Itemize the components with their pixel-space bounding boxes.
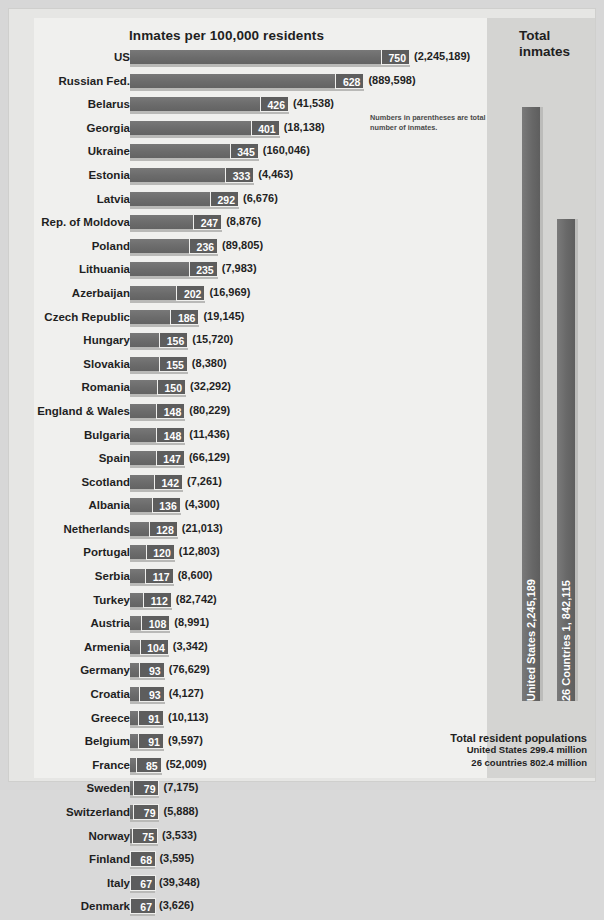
bar-total-label: (16,969) (209, 286, 250, 298)
bar-total-label: (82,742) (176, 593, 217, 605)
bar-value-chip: 247 (193, 214, 222, 230)
vertical-bar-us-label-text: United States 2,245,189 (525, 573, 537, 701)
totals-title-line2: inmates (519, 44, 570, 60)
bar-total-label: (89,805) (222, 239, 263, 251)
bar-total-label: (21,013) (182, 522, 223, 534)
bar-total-label: (8,600) (178, 569, 213, 581)
bar-row: Belarus426(41,538) (34, 95, 487, 119)
bar-value-chip: 75 (132, 828, 158, 844)
vertical-bar-26-countries: 26 Countries 1, 842,115 (557, 219, 575, 701)
bar-row-label: France (0, 759, 130, 771)
bar-row-label: Bulgaria (0, 429, 130, 441)
bar-row-label: Finland (0, 853, 130, 865)
bar-row-label: Serbia (0, 570, 130, 582)
bar-wrapper: 91 (130, 734, 164, 753)
bar-wrapper: 67 (130, 876, 155, 895)
totals-footer-line1: United States 299.4 million (357, 744, 587, 757)
bar-row-label: Scotland (0, 476, 130, 488)
bar-total-label: (7,261) (187, 475, 222, 487)
bar-wrapper: 202 (130, 286, 205, 305)
bar-row: Spain147(66,129) (34, 449, 487, 473)
bar-value-chip: 628 (335, 73, 364, 89)
bar-wrapper: 68 (130, 852, 155, 871)
bar-wrapper: 156 (130, 333, 188, 352)
bar-row-label: Lithuania (0, 263, 130, 275)
bar-row-label: Turkey (0, 594, 130, 606)
bar-total-label: (80,229) (189, 404, 230, 416)
bar-value-chip: 79 (133, 780, 159, 796)
bar-row: Hungary156(15,720) (34, 331, 487, 355)
bar-wrapper: 85 (130, 758, 162, 777)
bar-row-label: Azerbaijan (0, 287, 130, 299)
bar-total-label: (160,046) (263, 144, 310, 156)
bar-wrapper: 345 (130, 144, 259, 163)
bar-row-label: Ukraine (0, 145, 130, 157)
totals-footer: Total resident populations United States… (357, 732, 587, 770)
bar-wrapper: 333 (130, 168, 254, 187)
bar-wrapper: 426 (130, 97, 289, 116)
vertical-bar-united-states: United States 2,245,189 (522, 107, 540, 701)
bar-value-chip: 93 (139, 662, 165, 678)
bar-total-label: (18,138) (284, 121, 325, 133)
bar-wrapper: 292 (130, 192, 239, 211)
bar-wrapper: 108 (130, 616, 170, 635)
bar-row-label: Slovakia (0, 358, 130, 370)
bar-value-chip: 202 (176, 285, 205, 301)
bar-total-label: (8,380) (192, 357, 227, 369)
bar-value-chip: 186 (170, 309, 199, 325)
bar-wrapper: 112 (130, 593, 172, 612)
bar-chart-panel: Inmates per 100,000 residents Numbers in… (34, 18, 487, 778)
bar-row-label: Croatia (0, 688, 130, 700)
bar-value-chip: 401 (251, 120, 280, 136)
bar-total-label: (41,538) (293, 97, 334, 109)
vertical-bar-us-label: United States 2,245,189 (522, 107, 540, 701)
bar-row-label: Germany (0, 664, 130, 676)
bar-row: Estonia333(4,463) (34, 166, 487, 190)
bar-total-label: (3,626) (159, 899, 194, 911)
bar-value-chip: 750 (381, 49, 410, 65)
bar-row-label: Poland (0, 240, 130, 252)
bar-row: Latvia292(6,676) (34, 190, 487, 214)
bar-wrapper: 150 (130, 380, 186, 399)
bar-total-label: (889,598) (368, 74, 415, 86)
bar-wrapper: 142 (130, 475, 183, 494)
bar-total-label: (39,348) (159, 876, 200, 888)
bar-row: Switzerland79(5,888) (34, 803, 487, 827)
bar-wrapper: 120 (130, 545, 175, 564)
bar-row-label: Armenia (0, 641, 130, 653)
bar-row-label: England & Wales (0, 405, 130, 417)
bar-total-label: (3,342) (173, 640, 208, 652)
bar-total-label: (15,720) (192, 333, 233, 345)
bar-row: Denmark67(3,626) (34, 897, 487, 920)
bar-wrapper: 236 (130, 239, 218, 258)
bar-wrapper: 93 (130, 687, 165, 706)
bar-wrapper: 79 (130, 781, 159, 800)
bar-value-chip: 148 (156, 403, 185, 419)
bar-total-label: (12,803) (179, 545, 220, 557)
bar-wrapper: 148 (130, 428, 185, 447)
bar-value-chip: 91 (138, 710, 164, 726)
totals-title-line1: Total (519, 28, 570, 44)
bar-value-chip: 79 (133, 804, 159, 820)
bar-row: Netherlands128(21,013) (34, 520, 487, 544)
bar-total-label: (11,436) (189, 428, 229, 440)
bar-value-chip: 136 (152, 497, 181, 513)
bar-row: Finland68(3,595) (34, 850, 487, 874)
bar-row: Rep. of Moldova247(8,876) (34, 213, 487, 237)
bar (130, 50, 410, 64)
bar-total-label: (9,597) (168, 734, 203, 746)
bar-wrapper: 75 (130, 829, 158, 848)
bar-row-label: US (0, 51, 130, 63)
bar-row: Albania136(4,300) (34, 496, 487, 520)
bar-value-chip: 120 (146, 544, 175, 560)
bar-value-chip: 150 (157, 379, 186, 395)
bar-row-label: Austria (0, 617, 130, 629)
bar-row-label: Portugal (0, 546, 130, 558)
bar-row: Sweden79(7,175) (34, 779, 487, 803)
bar-value-chip: 345 (230, 143, 259, 159)
bar-row-label: Georgia (0, 122, 130, 134)
chart-title: Inmates per 100,000 residents (129, 28, 324, 43)
bar-row-label: Norway (0, 830, 130, 842)
bar-value-chip: 147 (156, 450, 185, 466)
